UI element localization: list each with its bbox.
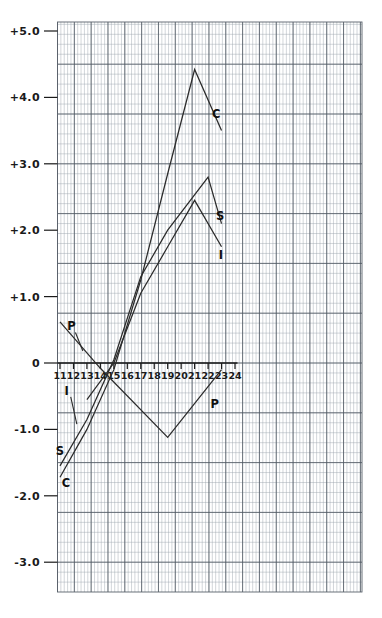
series-label-i: I: [219, 248, 223, 262]
series-label-c: C: [212, 107, 220, 121]
x-axis-tick-label: 18: [148, 370, 162, 381]
annotation-label-c-3: C: [62, 476, 70, 490]
y-axis-tick-label: -2.0: [14, 490, 40, 503]
y-axis-tick-label: +2.0: [10, 224, 40, 237]
chart-container: +5.0+4.0+3.0+2.0+1.00-1.0-2.0-3.0 111213…: [0, 0, 382, 618]
y-axis-tick-label: +4.0: [10, 91, 40, 104]
x-axis-tick-label: 20: [175, 370, 189, 381]
x-axis-tick-label: 11: [53, 370, 66, 381]
x-axis-tick-label: 24: [228, 370, 242, 381]
x-axis-tick-label: 22: [201, 370, 214, 381]
y-axis-tick-label: +5.0: [10, 25, 40, 38]
series-label-p: P: [211, 397, 219, 411]
y-axis-tick-label: -3.0: [14, 556, 40, 569]
x-axis-tick-label: 13: [80, 370, 93, 381]
line-chart-plot: +5.0+4.0+3.0+2.0+1.00-1.0-2.0-3.0 111213…: [0, 0, 382, 618]
x-axis-tick-label: 16: [121, 370, 135, 381]
x-axis-tick-label: 19: [161, 370, 174, 381]
y-axis-tick-label: 0: [32, 357, 40, 370]
y-axis-tick-label: -1.0: [14, 423, 40, 436]
x-axis-tick-label: 21: [188, 370, 201, 381]
series-label-s: S: [216, 209, 224, 223]
annotation-label-p-0: P: [67, 319, 75, 333]
y-axis-tick-label: +1.0: [10, 291, 40, 304]
y-axis-tick-label: +3.0: [10, 158, 40, 171]
annotation-label-i-1: I: [65, 384, 69, 398]
x-axis-tick-label: 17: [134, 370, 147, 381]
annotation-label-s-2: S: [56, 444, 64, 458]
x-axis-tick-label: 12: [67, 370, 80, 381]
